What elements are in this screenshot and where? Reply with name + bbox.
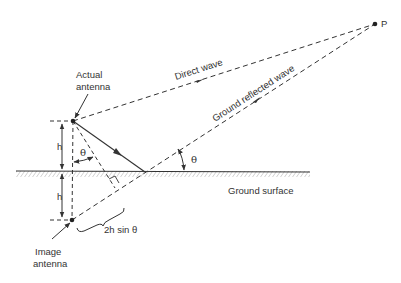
right-angle-marker [109,176,119,183]
height-lower-label: h [57,191,62,202]
point-p-dot [373,22,378,27]
image-ray-line [72,24,375,220]
direct-wave-label: Direct wave [173,56,224,82]
actual-antenna-label-1: Actual [76,69,102,80]
actual-antenna-pointer [75,94,88,118]
actual-antenna-label-2: antenna [76,81,111,92]
image-antenna-pointer [52,223,70,239]
theta-ground-label: θ [191,154,197,165]
ground-surface-label: Ground surface [228,185,293,196]
path-difference-label: 2h sin θ [104,224,137,235]
theta-antenna-label: θ [80,147,86,158]
ground-surface [16,171,310,177]
image-antenna-dot [70,218,75,223]
image-antenna-label-2: antenna [33,258,68,269]
height-upper-label: h [57,141,62,152]
image-antenna-label-1: Image [35,246,61,257]
direct-wave-arrow-icon [196,79,204,83]
antenna-vertical-dashed [72,121,73,220]
reflected-wave-label: Ground reflected wave [210,62,296,123]
theta-ground-arc [178,149,184,170]
point-p-label: P [381,18,387,29]
incident-ray-arrow-icon [113,148,122,156]
ground-reflection-diagram: h h θ θ 2h sin θ Actual antenna Image an… [0,0,401,283]
actual-antenna-dot [71,119,76,124]
